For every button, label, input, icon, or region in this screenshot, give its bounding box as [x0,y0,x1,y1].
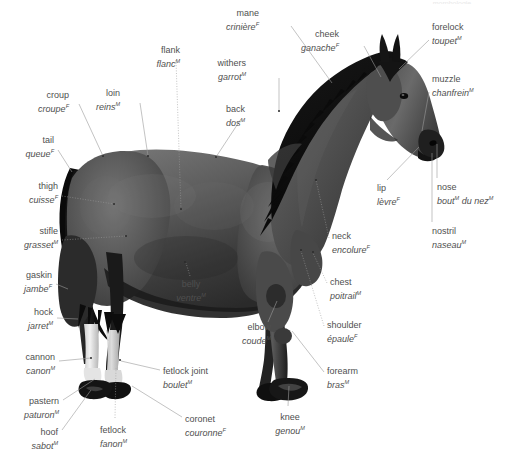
anchor-dot [184,261,186,263]
label-fetlock-joint-en: fetlock joint [163,366,208,377]
anchor-dot [119,359,121,361]
label-loin-fr: reinsM [70,99,120,113]
label-belly: belly ventreM [166,279,216,303]
label-nose-fr: boutM du nezM [437,193,493,207]
label-lip: lip lèvreF [377,183,400,207]
label-elbow-fr: coudeM [226,333,271,347]
label-cheek-fr: ganacheF [280,40,339,54]
label-withers: withers garrotM [190,58,246,82]
label-flank: flank flancM [122,45,180,69]
label-pastern: pastern paturonM [0,396,59,420]
anchor-dot [147,155,149,157]
anatomy-figure: morphologie [0,0,509,468]
label-elbow: elbow coudeM [226,322,271,346]
label-tail-en: tail [0,135,54,146]
anchor-dot [278,110,280,112]
label-chest: chest poitrailM [330,277,361,301]
label-thigh: thigh cuisseF [0,181,58,205]
label-stifle-fr: grassetM [0,237,58,251]
label-fetlock-fr: fanonM [100,436,127,450]
label-hock-fr: jarretM [0,318,53,332]
anchor-dot [113,203,115,205]
label-stifle-en: stifle [0,226,58,237]
anchor-dot [315,179,317,181]
label-hoof-fr: sabotM [0,438,58,452]
label-nose-en: nose [437,182,493,193]
label-cannon-en: cannon [0,352,55,363]
label-mane-en: mane [200,8,259,19]
anchor-dot [215,156,217,158]
label-chest-en: chest [330,277,361,288]
label-nose: nose boutM du nezM [437,182,493,206]
label-gaskin-fr: jambeF [0,281,52,295]
label-forearm-en: forearm [327,366,358,377]
label-cheek: cheek ganacheF [280,29,339,53]
label-muzzle-en: muzzle [432,74,474,85]
label-neck-en: neck [332,231,370,242]
label-cheek-en: cheek [280,29,339,40]
label-knee: knee genouM [268,412,312,436]
label-chest-fr: poitrailM [330,288,361,302]
label-flank-en: flank [122,45,180,56]
label-thigh-en: thigh [0,181,58,192]
label-withers-fr: garrotM [190,69,246,83]
anchor-dot [90,357,92,359]
label-back: back dosM [195,104,245,128]
label-forelock: forelock toupetM [432,22,464,46]
label-hock-en: hock [0,307,53,318]
label-nostril: nostril naseauM [432,226,466,250]
label-neck-fr: encolureF [332,242,370,256]
label-loin: loin reinsM [70,88,120,112]
label-nostril-en: nostril [432,226,466,237]
label-nostril-fr: naseauM [432,237,466,251]
label-shoulder-en: shoulder [327,320,362,331]
label-gaskin-en: gaskin [0,270,52,281]
label-forelock-en: forelock [432,22,464,33]
label-stifle: stifle grassetM [0,226,58,250]
label-tail-fr: queueF [0,146,54,160]
label-loin-en: loin [70,88,120,99]
label-croup: croup croupeF [0,90,69,114]
label-shoulder: shoulder épauleF [327,320,362,344]
label-cannon-fr: canonM [0,363,55,377]
label-coronet: coronet couronneF [185,414,226,438]
label-mane: mane crinièreF [200,8,259,32]
label-neck: neck encolureF [332,231,370,255]
label-muzzle-fr: chanfreinM [432,85,474,99]
label-cannon: cannon canonM [0,352,55,376]
label-gaskin: gaskin jambeF [0,270,52,294]
label-fetlock: fetlock fanonM [100,425,127,449]
label-knee-fr: genouM [268,423,312,437]
label-belly-en: belly [166,279,216,290]
label-fetlock-joint-fr: bouletM [163,377,208,391]
label-mane-fr: crinièreF [200,19,259,33]
label-tail: tail queueF [0,135,54,159]
label-knee-en: knee [268,412,312,423]
label-shoulder-fr: épauleF [327,331,362,345]
label-flank-fr: flancM [122,56,180,70]
label-hoof-en: hoof [0,427,58,438]
label-back-en: back [195,104,245,115]
label-withers-en: withers [190,58,246,69]
label-pastern-fr: paturonM [0,407,59,421]
anchor-dot [180,208,182,210]
label-forelock-fr: toupetM [432,33,464,47]
label-elbow-en: elbow [226,322,271,333]
label-forearm-fr: brasM [327,377,358,391]
label-croup-fr: croupeF [0,101,69,115]
label-fetlock-joint: fetlock joint bouletM [163,366,208,390]
label-coronet-fr: couronneF [185,425,226,439]
label-hoof: hoof sabotM [0,427,58,451]
label-croup-en: croup [0,90,69,101]
anchor-dot [312,251,314,253]
anchor-dot [102,155,104,157]
label-hock: hock jarretM [0,307,53,331]
label-pastern-en: pastern [0,396,59,407]
label-back-fr: dosM [195,115,245,129]
label-coronet-en: coronet [185,414,226,425]
cut-off-header-text: morphologie [420,0,484,4]
label-forearm: forearm brasM [327,366,358,390]
anchor-dot [300,249,302,251]
label-muzzle: muzzle chanfreinM [432,74,474,98]
anchor-dot [125,235,127,237]
